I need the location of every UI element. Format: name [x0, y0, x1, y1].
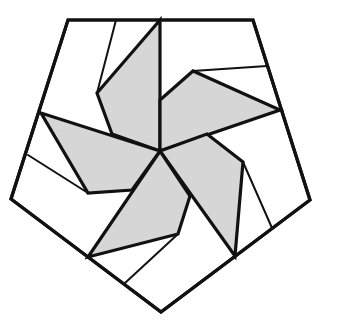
diagram-canvas [0, 0, 337, 331]
pentagon-pinwheel-diagram [0, 0, 337, 331]
